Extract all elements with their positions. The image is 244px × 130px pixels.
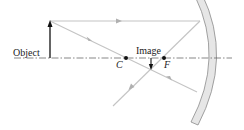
concave-mirror bbox=[191, 0, 217, 125]
ray-parallel bbox=[50, 21, 200, 106]
image-label: Image bbox=[136, 45, 162, 56]
f-label: F bbox=[163, 59, 171, 70]
object-arrow bbox=[48, 20, 53, 58]
ray-through-center bbox=[50, 21, 197, 92]
center-of-curvature-point bbox=[124, 56, 128, 60]
ray-direction-arrow-icon bbox=[129, 84, 135, 91]
object-label: Object bbox=[13, 47, 40, 58]
ray-diagram: Object Image C F bbox=[0, 0, 244, 130]
ray-direction-arrow-icon bbox=[116, 19, 122, 24]
c-label: C bbox=[116, 59, 123, 70]
image-arrow bbox=[149, 58, 153, 70]
ray-direction-arrow-icon bbox=[166, 76, 172, 81]
